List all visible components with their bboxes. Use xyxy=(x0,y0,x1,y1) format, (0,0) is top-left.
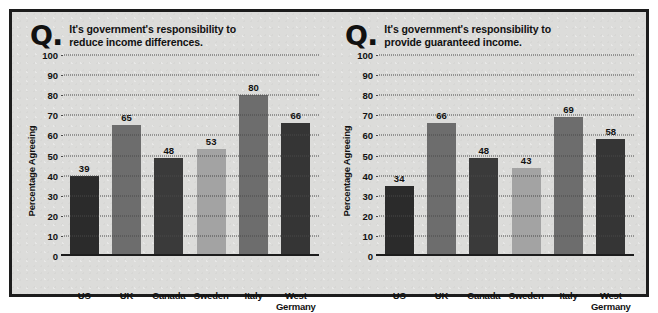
x-axis-line-left xyxy=(61,254,319,256)
gridline xyxy=(376,215,634,216)
gridline xyxy=(376,95,634,96)
gridline xyxy=(376,75,634,76)
gridline xyxy=(376,155,634,156)
y-axis-ticks-right: 1009080706050403020100 xyxy=(353,55,376,256)
question-line-2: reduce income differences. xyxy=(69,36,236,49)
question-text-left: It's government's responsibility to redu… xyxy=(69,21,236,48)
gridline xyxy=(61,55,319,56)
gridline xyxy=(376,175,634,176)
y-tick-label: 50 xyxy=(47,150,58,161)
question-header-left: Q. It's government's responsibility to r… xyxy=(24,21,319,55)
x-tick-label: Sweden xyxy=(190,290,232,312)
bar-value-label: 43 xyxy=(521,155,532,166)
q-period: . xyxy=(367,17,377,52)
x-tick-label: US xyxy=(378,290,420,312)
x-tick-label: Canada xyxy=(463,290,505,312)
bar-italy: 69 xyxy=(554,117,583,254)
gridline xyxy=(61,75,319,76)
y-tick-label: 30 xyxy=(362,190,373,201)
plot-area-right: Percentage Agreeing 10090807060504030201… xyxy=(339,55,634,287)
gridline xyxy=(61,135,319,136)
gridline xyxy=(61,175,319,176)
x-axis-line-right xyxy=(376,254,634,256)
y-tick-label: 40 xyxy=(362,170,373,181)
y-tick-label: 80 xyxy=(362,90,373,101)
figure-frame: Q. It's government's responsibility to r… xyxy=(9,9,649,297)
chart-panel-right: Q. It's government's responsibility to p… xyxy=(329,12,646,294)
y-axis-label-right: Percentage Agreeing xyxy=(339,55,353,287)
question-header-right: Q. It's government's responsibility to p… xyxy=(339,21,634,55)
y-tick-label: 10 xyxy=(362,230,373,241)
y-tick-label: 60 xyxy=(362,130,373,141)
y-tick-label: 30 xyxy=(47,190,58,201)
bar-us: 34 xyxy=(385,186,414,254)
q-letter: Q xyxy=(30,20,52,51)
question-line-1: It's government's responsibility to xyxy=(69,23,236,36)
x-tick-label: Italy xyxy=(547,290,589,312)
gridline xyxy=(61,115,319,116)
x-tick-label: UK xyxy=(420,290,462,312)
bar-value-label: 80 xyxy=(248,82,259,93)
question-text-right: It's government's responsibility to prov… xyxy=(384,21,551,48)
y-tick-label: 40 xyxy=(47,170,58,181)
y-tick-label: 90 xyxy=(47,70,58,81)
x-tick-label: WestGermany xyxy=(275,290,317,312)
x-tick-label: Sweden xyxy=(505,290,547,312)
bar-value-label: 53 xyxy=(206,136,217,147)
bar-value-label: 65 xyxy=(121,112,132,123)
y-tick-label: 10 xyxy=(47,230,58,241)
bar-canada: 48 xyxy=(469,158,498,254)
bar-canada: 48 xyxy=(154,158,183,254)
chart-panel-left: Q. It's government's responsibility to r… xyxy=(12,12,329,294)
y-tick-label: 80 xyxy=(47,90,58,101)
chart-panels: Q. It's government's responsibility to r… xyxy=(12,12,646,294)
gridline xyxy=(376,195,634,196)
x-tick-label: Italy xyxy=(232,290,274,312)
bar-value-label: 69 xyxy=(563,104,574,115)
question-line-1: It's government's responsibility to xyxy=(384,23,551,36)
y-tick-label: 0 xyxy=(53,251,58,262)
gridline xyxy=(376,55,634,56)
y-tick-label: 90 xyxy=(362,70,373,81)
y-tick-label: 0 xyxy=(368,251,373,262)
grid-area-left: 396548538066 xyxy=(61,55,319,256)
question-mark-glyph-left: Q. xyxy=(30,22,62,49)
y-tick-label: 60 xyxy=(47,130,58,141)
y-tick-label: 20 xyxy=(362,210,373,221)
question-line-2: provide guaranteed income. xyxy=(384,36,551,49)
chart-figure: Q. It's government's responsibility to r… xyxy=(0,0,658,313)
gridline xyxy=(61,155,319,156)
bar-sweden: 53 xyxy=(197,149,226,254)
y-tick-label: 70 xyxy=(362,110,373,121)
x-label-spacer xyxy=(341,290,378,312)
grid-area-right: 346648436958 xyxy=(376,55,634,256)
y-tick-label: 20 xyxy=(47,210,58,221)
bar-uk: 66 xyxy=(427,123,456,254)
bar-value-label: 39 xyxy=(79,163,90,174)
gridline xyxy=(61,195,319,196)
bar-sweden: 43 xyxy=(512,168,541,254)
x-tick-label: Canada xyxy=(148,290,190,312)
q-letter: Q xyxy=(345,20,367,51)
gridline xyxy=(61,235,319,236)
gridline xyxy=(376,235,634,236)
y-tick-label: 50 xyxy=(362,150,373,161)
gridline xyxy=(61,95,319,96)
x-axis-labels-right: USUKCanadaSwedenItalyWestGermany xyxy=(339,290,634,312)
y-axis-ticks-left: 1009080706050403020100 xyxy=(38,55,61,256)
y-axis-label-left: Percentage Agreeing xyxy=(24,55,38,287)
question-mark-glyph-right: Q. xyxy=(345,22,377,49)
y-tick-label: 70 xyxy=(47,110,58,121)
x-axis-labels-left: USUKCanadaSwedenItalyWestGermany xyxy=(24,290,319,312)
x-tick-label: UK xyxy=(105,290,147,312)
y-tick-label: 100 xyxy=(42,50,58,61)
plot-area-left: Percentage Agreeing 10090807060504030201… xyxy=(24,55,319,287)
gridline xyxy=(376,115,634,116)
bar-west-germany: 66 xyxy=(281,123,310,254)
gridline xyxy=(61,215,319,216)
q-period: . xyxy=(52,17,62,52)
gridline xyxy=(376,135,634,136)
y-tick-label: 100 xyxy=(357,50,373,61)
x-tick-label: WestGermany xyxy=(590,290,632,312)
x-tick-label: US xyxy=(63,290,105,312)
